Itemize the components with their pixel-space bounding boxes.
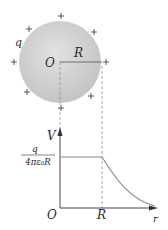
plus-icon — [91, 29, 97, 35]
plus-icon — [58, 105, 64, 111]
x-tick-label-R: R — [96, 208, 106, 222]
x-axis-label: r — [153, 213, 159, 224]
center-label: O — [45, 56, 55, 70]
origin-label: O — [47, 208, 57, 222]
plus-icon — [26, 26, 32, 32]
fraction-numerator: q — [32, 144, 38, 154]
y-axis-label: V — [47, 129, 57, 143]
plus-icon — [103, 59, 109, 65]
plus-icon — [11, 59, 17, 65]
potential-curve — [60, 157, 155, 206]
x-axis-arrow-icon — [149, 206, 158, 211]
radius-label: R — [73, 46, 83, 60]
plus-icon — [58, 13, 64, 19]
potential-graph: V r O R q 4πε₀R — [21, 127, 159, 224]
y-axis-arrow-icon — [58, 127, 63, 136]
plus-icon — [24, 89, 30, 95]
sphere-potential-diagram: q O R V r O R q 4πε₀R — [0, 0, 168, 230]
charge-label: q — [15, 36, 22, 49]
plateau-value-label: q 4πε₀R — [21, 144, 55, 167]
plus-icon — [88, 93, 94, 99]
fraction-denominator: 4πε₀R — [24, 157, 51, 167]
